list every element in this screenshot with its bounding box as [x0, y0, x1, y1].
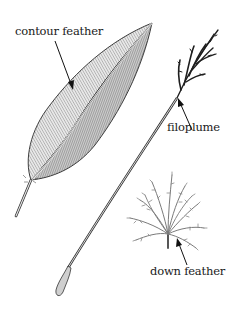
filoplume-base — [56, 266, 71, 296]
contour-feather — [16, 23, 152, 216]
filoplume-tuft — [177, 30, 218, 98]
down-feather-arrow — [176, 238, 187, 265]
feather-diagram: contour feather filoplume down feather — [0, 0, 228, 311]
label-contour-feather: contour feather — [15, 26, 103, 38]
contour-feather-arrow — [55, 41, 74, 90]
label-filoplume: filoplume — [167, 122, 220, 134]
down-feather — [127, 172, 207, 250]
label-down-feather: down feather — [150, 266, 225, 278]
